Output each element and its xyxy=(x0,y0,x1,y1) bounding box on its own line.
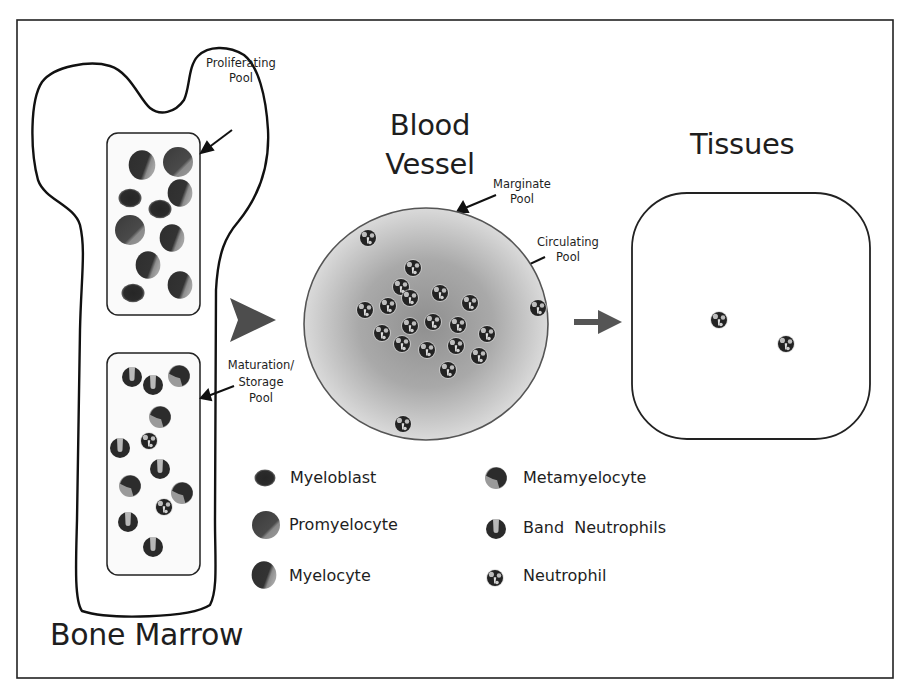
legend-label-myelocyte: Myelocyte xyxy=(289,568,371,584)
neutrophil-cell-icon xyxy=(418,341,436,359)
neutrophil-cell-icon xyxy=(431,284,449,302)
metamyelocyte-cell-icon xyxy=(171,482,193,504)
neutrophil-cell-icon xyxy=(449,316,467,334)
proliferating-pool-label: Proliferating Pool xyxy=(196,56,286,86)
neutrophil-cell-icon xyxy=(424,313,442,331)
neutrophil-cell-icon xyxy=(379,297,397,315)
band-cell-icon xyxy=(110,438,130,458)
myeloblast-cell-icon xyxy=(148,200,171,219)
neutrophil-cell-icon xyxy=(470,347,488,365)
neutrophil-cell-icon xyxy=(710,311,728,329)
circulating-pool-label: Circulating Pool xyxy=(528,235,608,265)
neutrophil-cell-icon xyxy=(486,569,504,587)
neutrophil-cell-icon xyxy=(401,317,419,335)
metamyelocyte-cell-icon xyxy=(485,467,507,489)
myelocyte-cell-icon xyxy=(168,271,193,298)
myeloblast-cell-icon xyxy=(121,284,144,303)
legend-label-neutrophil: Neutrophil xyxy=(523,568,606,584)
myeloblast-cell-icon xyxy=(255,470,276,487)
neutrophil-cell-icon xyxy=(155,498,173,516)
neutrophil-cell-icon xyxy=(356,301,374,319)
neutrophil-cell-icon xyxy=(478,325,496,343)
metamyelocyte-cell-icon xyxy=(149,406,171,428)
myeloblast-cell-icon xyxy=(118,189,141,208)
neutrophil-cell-icon xyxy=(439,361,457,379)
neutrophil-cell-icon xyxy=(529,299,547,317)
metamyelocyte-cell-icon xyxy=(119,475,141,497)
blood-vessel-title: Blood Vessel xyxy=(384,106,476,184)
neutrophil-cell-icon xyxy=(394,415,412,433)
neutrophil-cell-icon xyxy=(401,289,419,307)
myelocyte-cell-icon xyxy=(136,251,161,278)
legend-label-metamyelocyte: Metamyelocyte xyxy=(523,470,646,486)
band-cell-icon xyxy=(143,375,163,395)
promyelocyte-cell-icon xyxy=(163,147,193,177)
tissues-box xyxy=(632,193,870,439)
marginate-pool-label: Marginate Pool xyxy=(484,177,560,207)
myelocyte-cell-icon xyxy=(168,179,193,206)
maturation-pool-label: Maturation/ Storage Pool xyxy=(220,357,302,407)
tissues-title: Tissues xyxy=(690,130,794,159)
neutrophil-cell-icon xyxy=(373,324,391,342)
neutrophil-cell-icon xyxy=(447,337,465,355)
band-cell-icon xyxy=(118,512,138,532)
band-cell-icon xyxy=(150,459,170,479)
bone-marrow-title: Bone Marrow xyxy=(50,620,243,650)
neutrophil-cell-icon xyxy=(140,432,158,450)
neutrophil-cell-icon xyxy=(359,229,377,247)
neutrophil-cell-icon xyxy=(461,294,479,312)
myelocyte-cell-icon xyxy=(160,224,185,251)
band-cell-icon xyxy=(486,519,506,539)
band-cell-icon xyxy=(143,537,163,557)
legend-label-promyelocyte: Promyelocyte xyxy=(289,517,398,533)
legend-label-myeloblast: Myeloblast xyxy=(290,470,376,486)
promyelocyte-cell-icon xyxy=(252,511,280,539)
legend-label-band-neutrophils: Band Neutrophils xyxy=(523,520,666,536)
metamyelocyte-cell-icon xyxy=(168,365,190,387)
neutrophil-cell-icon xyxy=(393,335,411,353)
myelocyte-cell-icon xyxy=(129,150,156,179)
band-cell-icon xyxy=(122,367,142,387)
promyelocyte-cell-icon xyxy=(115,215,145,245)
neutrophil-kinetics-diagram xyxy=(0,0,911,700)
neutrophil-cell-icon xyxy=(777,335,795,353)
myelocyte-cell-icon xyxy=(252,561,277,588)
neutrophil-cell-icon xyxy=(404,259,422,277)
